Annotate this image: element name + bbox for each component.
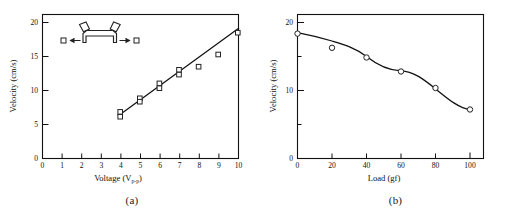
data-point <box>364 55 369 60</box>
panel-a-axes <box>43 15 239 159</box>
panel-a-data-points <box>118 30 240 119</box>
panel-b-caption: (b) <box>264 194 527 206</box>
xtick-label: 5 <box>139 161 143 170</box>
data-point <box>118 114 123 119</box>
panel-a-xticks <box>43 153 239 159</box>
panel-b-xticks <box>298 153 471 159</box>
xlabel-tail: ) <box>139 173 142 183</box>
xtick-label: 40 <box>363 161 371 170</box>
data-point <box>398 69 403 74</box>
data-point <box>177 68 182 73</box>
panel-b-xlabel: Load (gf) <box>368 173 401 183</box>
data-point <box>433 85 438 90</box>
xtick-label: 60 <box>397 161 405 170</box>
xtick-label: 9 <box>217 161 221 170</box>
xtick-label: 4 <box>119 161 123 170</box>
panel-a-xlabel: Voltage (Vp-p) <box>94 173 142 184</box>
data-point <box>216 52 221 57</box>
xtick-label: 2 <box>80 161 84 170</box>
xtick-label: 6 <box>158 161 162 170</box>
xtick-label: 1 <box>60 161 64 170</box>
xtick-label: 3 <box>99 161 103 170</box>
data-point <box>196 64 201 69</box>
panel-b-trend-curve <box>298 33 471 110</box>
panel-b-plot: 0 20 40 60 80 100 0 10 20 Velocity (cm/s… <box>264 0 527 186</box>
panel-b-ylabel: Velocity (cm/s) <box>268 59 278 112</box>
xtick-label: 10 <box>235 161 243 170</box>
panel-a-yticks <box>43 23 49 159</box>
panel-a-plot: 0 1 2 3 4 5 6 7 8 9 10 0 5 10 15 20 V <box>0 0 264 186</box>
panel-b-data-points <box>295 31 473 112</box>
data-point <box>329 45 334 50</box>
panel-b-axes <box>298 15 484 159</box>
xtick-label: 8 <box>197 161 201 170</box>
data-point <box>295 31 300 36</box>
ytick-label: 20 <box>285 18 293 27</box>
panel-a-ylabel: Velocity (cm/s) <box>8 59 18 112</box>
ytick-label: 0 <box>289 154 293 163</box>
ytick-label: 0 <box>34 154 38 163</box>
panel-b-yticks <box>298 23 305 159</box>
xtick-label: 100 <box>464 161 476 170</box>
panel-b-ytick-labels: 0 10 20 <box>285 18 293 163</box>
data-point <box>467 107 472 112</box>
xtick-label: 7 <box>178 161 182 170</box>
xtick-label: 20 <box>328 161 336 170</box>
figure-container: 0 1 2 3 4 5 6 7 8 9 10 0 5 10 15 20 V <box>0 0 527 212</box>
panel-a-xtick-labels: 0 1 2 3 4 5 6 7 8 9 10 <box>41 161 243 170</box>
ytick-label: 15 <box>30 52 38 61</box>
panel-b: 0 20 40 60 80 100 0 10 20 Velocity (cm/s… <box>264 0 527 212</box>
svg-text:Voltage (Vp-p): Voltage (Vp-p) <box>94 173 142 184</box>
data-point <box>177 72 182 77</box>
panel-a-caption: (a) <box>0 194 264 206</box>
left-direction-arrow <box>71 39 81 43</box>
data-point <box>138 99 143 104</box>
ytick-label: 10 <box>285 86 293 95</box>
panel-a-ytick-labels: 0 5 10 15 20 <box>30 18 38 163</box>
xlabel-main: Voltage (V <box>94 173 132 183</box>
left-reference-marker <box>61 38 66 43</box>
data-point <box>157 81 162 86</box>
xtick-label: 0 <box>41 161 45 170</box>
right-reference-marker <box>134 38 139 43</box>
xtick-label: 0 <box>296 161 300 170</box>
xtick-label: 80 <box>432 161 440 170</box>
data-point <box>157 86 162 91</box>
panel-a: 0 1 2 3 4 5 6 7 8 9 10 0 5 10 15 20 V <box>0 0 264 212</box>
data-point <box>118 110 123 115</box>
ytick-label: 10 <box>30 86 38 95</box>
data-point <box>236 30 241 35</box>
panel-b-xtick-labels: 0 20 40 60 80 100 <box>296 161 476 170</box>
right-direction-arrow <box>120 39 130 43</box>
micro-robot-schematic <box>61 22 139 43</box>
ytick-label: 5 <box>34 120 38 129</box>
ytick-label: 20 <box>30 18 38 27</box>
